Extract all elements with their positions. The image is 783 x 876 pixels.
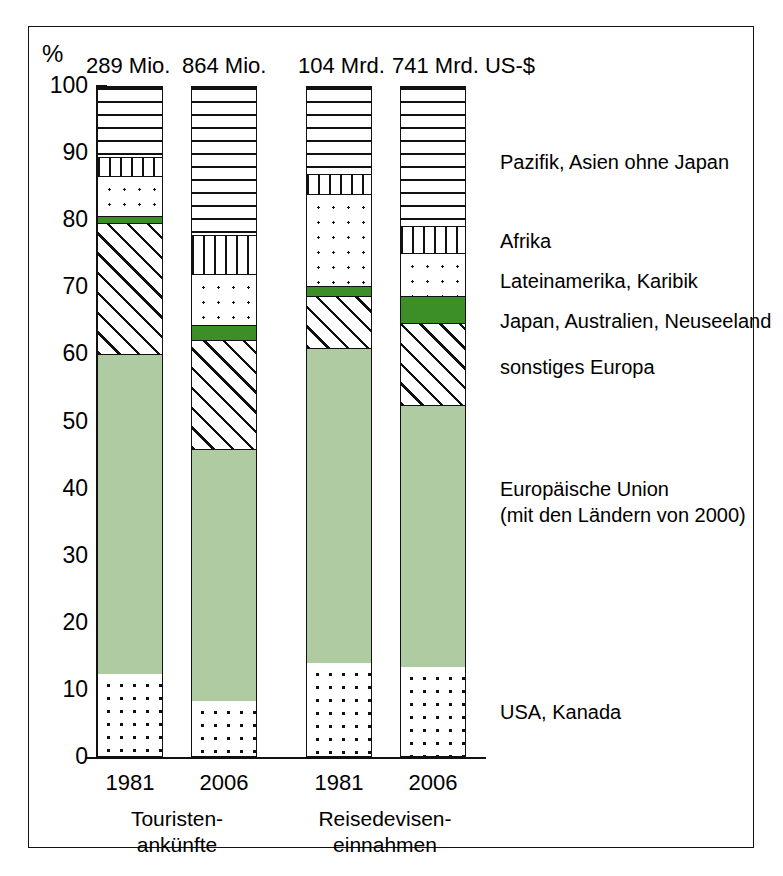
bar-top-label-4: 741 Mrd. US-$: [392, 55, 535, 77]
bar-segment[interactable]: [192, 325, 256, 340]
group-label-ankuenfte-line1: Touristen-: [82, 806, 272, 832]
x-label-year-2: 2006: [181, 772, 267, 794]
legend-pazifik: Pazifik, Asien ohne Japan: [500, 150, 729, 175]
bar-2006-ankuenfte[interactable]: [191, 86, 257, 757]
x-axis-line: [86, 757, 486, 759]
bar-segment[interactable]: [192, 87, 256, 235]
y-tick-label-20: 20: [30, 611, 88, 634]
group-label-einnahmen: Reisedevisen- einnahmen: [290, 806, 480, 858]
legend-eu-line2: (mit den Ländern von 2000): [500, 503, 746, 528]
y-tick-label-40: 40: [30, 477, 88, 500]
y-tick-label-50: 50: [30, 410, 88, 433]
bar-segment[interactable]: [98, 176, 162, 216]
y-tick-label-10: 10: [30, 678, 88, 701]
legend-afrika: Afrika: [500, 229, 551, 254]
bar-segment[interactable]: [307, 296, 371, 348]
bar-segment[interactable]: [307, 663, 371, 757]
bar-segment[interactable]: [307, 348, 371, 663]
bar-segment[interactable]: [307, 87, 371, 174]
bar-segment[interactable]: [98, 87, 162, 157]
bar-segment[interactable]: [401, 296, 465, 323]
bar-segment[interactable]: [98, 157, 162, 175]
group-label-einnahmen-line1: Reisedevisen-: [290, 806, 480, 832]
bar-segment[interactable]: [192, 340, 256, 449]
chart-root: % 1009080706050403020100 289 Mio. 864 Mi…: [0, 0, 783, 876]
y-tick-label-70: 70: [30, 275, 88, 298]
bar-segment[interactable]: [307, 286, 371, 295]
bar-top-label-1: 289 Mio.: [86, 55, 170, 77]
y-tick-label-80: 80: [30, 208, 88, 231]
bar-segment[interactable]: [401, 323, 465, 405]
bar-segment[interactable]: [98, 354, 162, 674]
group-label-einnahmen-line2: einnahmen: [290, 832, 480, 858]
legend-sonstiges-europa: sonstiges Europa: [500, 355, 655, 380]
bar-segment[interactable]: [401, 87, 465, 226]
bar-segment[interactable]: [401, 667, 465, 757]
y-tick-label-0: 0: [30, 745, 88, 768]
group-label-ankuenfte-line2: ankünfte: [82, 832, 272, 858]
x-label-year-3: 1981: [296, 772, 382, 794]
x-label-year-4: 2006: [390, 772, 476, 794]
bar-segment[interactable]: [401, 405, 465, 667]
bar-top-label-2: 864 Mio.: [182, 55, 266, 77]
legend-eu-line1: Europäische Union: [500, 477, 669, 502]
y-tick-label-90: 90: [30, 141, 88, 164]
bar-segment[interactable]: [401, 226, 465, 253]
bar-segment[interactable]: [192, 274, 256, 325]
y-axis-unit-label: %: [42, 40, 64, 68]
bar-2006-einnahmen[interactable]: [400, 86, 466, 757]
group-label-ankuenfte: Touristen- ankünfte: [82, 806, 272, 858]
y-tick-label-60: 60: [30, 342, 88, 365]
bar-segment[interactable]: [307, 194, 371, 286]
bar-top-label-3: 104 Mrd.: [298, 55, 385, 77]
bar-segment[interactable]: [98, 216, 162, 223]
x-label-year-1: 1981: [87, 772, 173, 794]
bar-segment[interactable]: [98, 223, 162, 355]
legend-japan: Japan, Australien, Neuseeland: [500, 309, 771, 334]
y-tick-label-30: 30: [30, 544, 88, 567]
bar-segment[interactable]: [192, 449, 256, 701]
bar-segment[interactable]: [98, 674, 162, 757]
bar-segment[interactable]: [192, 701, 256, 757]
bar-segment[interactable]: [307, 174, 371, 194]
bar-1981-einnahmen[interactable]: [306, 86, 372, 757]
bar-segment[interactable]: [192, 235, 256, 274]
bar-1981-ankuenfte[interactable]: [97, 86, 163, 757]
bar-segment[interactable]: [401, 253, 465, 297]
legend-lateinamerika: Lateinamerika, Karibik: [500, 269, 698, 294]
legend-usa: USA, Kanada: [500, 700, 621, 725]
y-tick-label-100: 100: [30, 74, 88, 97]
